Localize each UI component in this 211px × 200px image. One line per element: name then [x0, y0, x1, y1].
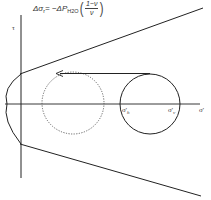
stress-change-equation: Δσ r = −ΔP H2O ( 1−ν ν ) [33, 0, 105, 17]
eq-equals: = −ΔP [45, 4, 67, 13]
eq-denominator: ν [90, 9, 94, 17]
tau-axis-label: τ [12, 24, 15, 32]
shifted-mohr-circle-dotted [42, 72, 104, 134]
tension-cap-arc [6, 74, 21, 144]
left-paren: ( [79, 1, 83, 17]
sigma-h-sub: h [127, 110, 130, 115]
eq-p-sub: H2O [67, 8, 78, 14]
eq-lhs-sub: r [43, 8, 45, 14]
sigma-h-label: σ'h [122, 106, 130, 114]
tau-symbol: τ [12, 24, 15, 32]
mohr-coulomb-diagram [0, 0, 211, 200]
eq-numerator: 1−ν [85, 0, 98, 9]
sigma-axis-label: σ' [199, 106, 204, 114]
failure-envelope-lower [20, 144, 201, 196]
eq-lhs: Δσ [33, 4, 43, 13]
right-paren: ) [100, 1, 104, 17]
sigma-symbol: σ' [199, 106, 204, 114]
eq-fraction: 1−ν ν [85, 0, 98, 17]
sigma-v-label: σ'v [168, 106, 175, 114]
sigma-v-sub: v [173, 110, 175, 115]
failure-envelope-upper [20, 8, 203, 74]
